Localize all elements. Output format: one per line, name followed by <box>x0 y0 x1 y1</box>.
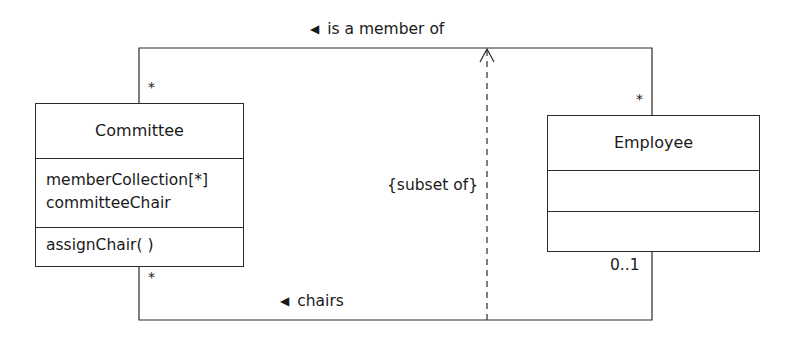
chairs-association-label: ◀chairs <box>280 292 344 310</box>
direction-triangle-icon: ◀ <box>310 22 319 36</box>
attributes-compartment <box>548 170 759 211</box>
attribute: memberCollection[*] <box>46 169 243 192</box>
member-of-association-label: ◀is a member of <box>310 20 444 38</box>
multiplicity-committee-chairs: * <box>148 269 155 285</box>
class-name-compartment: Employee <box>548 116 759 170</box>
class-committee[interactable]: Committee memberCollection[*] committeeC… <box>35 103 244 267</box>
association-name: chairs <box>297 292 344 310</box>
multiplicity-committee-member-of: * <box>148 79 155 95</box>
operations-compartment: assignChair( ) <box>36 227 243 266</box>
multiplicity-employee-chairs: 0..1 <box>610 256 640 274</box>
class-name-compartment: Committee <box>36 104 243 158</box>
class-name: Committee <box>95 121 184 140</box>
class-employee[interactable]: Employee <box>547 115 760 252</box>
direction-triangle-icon: ◀ <box>280 294 289 308</box>
operations-compartment <box>548 211 759 251</box>
association-name: is a member of <box>327 20 444 38</box>
class-name: Employee <box>614 133 693 152</box>
subset-of-constraint-label: {subset of} <box>387 176 478 194</box>
operation: assignChair( ) <box>46 234 243 257</box>
multiplicity-employee-member-of: * <box>636 91 643 107</box>
attribute: committeeChair <box>46 192 243 215</box>
attributes-compartment: memberCollection[*] committeeChair <box>36 158 243 227</box>
